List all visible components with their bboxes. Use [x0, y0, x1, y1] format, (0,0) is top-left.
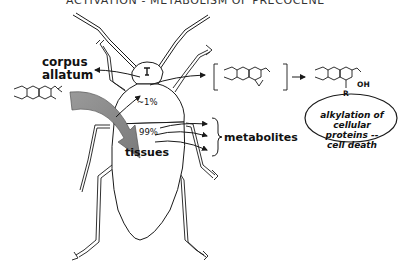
product-structure [315, 67, 361, 88]
metabolites-brace [212, 118, 222, 156]
tissues-label: tissues [125, 146, 169, 159]
corpus-allatum-label: corpus allatum [42, 56, 93, 82]
epoxide-structure [214, 64, 287, 90]
hydroxyl-label: OH [357, 80, 370, 89]
precocene-structure [14, 86, 62, 99]
metabolites-label: metabolites [224, 131, 298, 144]
diagram: ACTIVATION - METABOLISM OF PRECOCENE [0, 0, 403, 270]
outcome-text: alkylation of cellular proteins -- cell … [312, 110, 392, 150]
large-percent-label: 99% [139, 127, 158, 137]
r-group-label: R [343, 89, 349, 98]
small-percent-label: ~1% [137, 97, 158, 107]
